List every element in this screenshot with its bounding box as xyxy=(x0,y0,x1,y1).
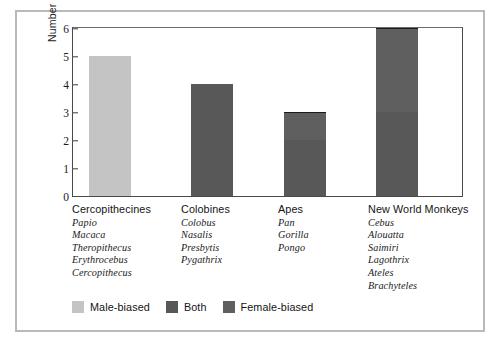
genus-name: Brachyteles xyxy=(368,280,469,293)
genus-name: Presbytis xyxy=(181,242,230,255)
bar-segment-male-biased xyxy=(89,56,131,196)
genus-name: Colobus xyxy=(181,217,230,230)
genus-name: Pygathrix xyxy=(181,254,230,267)
genus-name: Nasalis xyxy=(181,229,230,242)
plot-area: Number of Genera 0123456 xyxy=(72,27,463,197)
genus-name: Papio xyxy=(72,217,151,230)
bar-segment-female-biased xyxy=(284,112,326,140)
legend-item-male-biased: Male-biased xyxy=(72,301,150,313)
genus-name: Gorilla xyxy=(278,229,309,242)
genus-name: Saimiri xyxy=(368,242,469,255)
y-tick-label-5: 5 xyxy=(51,51,69,63)
y-tick-mark-3 xyxy=(73,112,78,113)
genus-name: Alouatta xyxy=(368,229,469,242)
category-block-colobines: ColobinesColobusNasalisPresbytisPygathri… xyxy=(181,203,230,267)
category-block-cercopithecines: CercopithecinesPapioMacacaTheropithecusE… xyxy=(72,203,151,280)
bar-segment-both xyxy=(284,140,326,196)
y-tick-mark-6 xyxy=(73,28,78,29)
bar-segment-both xyxy=(376,112,418,196)
legend-swatch-icon xyxy=(166,301,178,313)
legend-label: Female-biased xyxy=(241,301,314,313)
legend-swatch-icon xyxy=(72,301,84,313)
legend-item-both: Both xyxy=(166,301,207,313)
genus-name: Pongo xyxy=(278,242,309,255)
category-block-new-world-monkeys: New World MonkeysCebusAlouattaSaimiriLag… xyxy=(368,203,469,292)
legend-label: Male-biased xyxy=(90,301,150,313)
category-block-apes: ApesPanGorillaPongo xyxy=(278,203,309,254)
y-tick-label-3: 3 xyxy=(51,107,69,119)
y-tick-mark-1 xyxy=(73,168,78,169)
genus-name: Cebus xyxy=(368,217,469,230)
legend-swatch-icon xyxy=(223,301,235,313)
category-label: New World Monkeys xyxy=(368,203,469,216)
bar-colobines xyxy=(191,84,233,196)
y-tick-mark-2 xyxy=(73,140,78,141)
y-tick-label-6: 6 xyxy=(51,23,69,35)
legend-item-female-biased: Female-biased xyxy=(223,301,314,313)
y-tick-label-1: 1 xyxy=(51,163,69,175)
category-label: Colobines xyxy=(181,203,230,216)
y-tick-label-0: 0 xyxy=(51,191,69,203)
genus-name: Pan xyxy=(278,217,309,230)
bar-new-world-monkeys xyxy=(376,28,418,196)
genus-name: Erythrocebus xyxy=(72,254,151,267)
genus-name: Macaca xyxy=(72,229,151,242)
bar-apes xyxy=(284,112,326,196)
y-tick-mark-4 xyxy=(73,84,78,85)
y-tick-label-4: 4 xyxy=(51,79,69,91)
y-axis-title: Number of Genera xyxy=(46,0,58,42)
y-tick-mark-5 xyxy=(73,56,78,57)
bar-cercopithecines xyxy=(89,56,131,196)
genus-name: Theropithecus xyxy=(72,242,151,255)
bar-segment-female-biased xyxy=(376,28,418,112)
category-label: Apes xyxy=(278,203,309,216)
chart-legend: Male-biasedBothFemale-biased xyxy=(72,301,329,313)
legend-label: Both xyxy=(184,301,207,313)
genus-name: Lagothrix xyxy=(368,254,469,267)
category-label: Cercopithecines xyxy=(72,203,151,216)
genus-name: Cercopithecus xyxy=(72,267,151,280)
genus-name: Ateles xyxy=(368,267,469,280)
bar-segment-both xyxy=(191,84,233,196)
chart-figure: Number of Genera 0123456 Cercopithecines… xyxy=(0,0,500,347)
y-tick-label-2: 2 xyxy=(51,135,69,147)
